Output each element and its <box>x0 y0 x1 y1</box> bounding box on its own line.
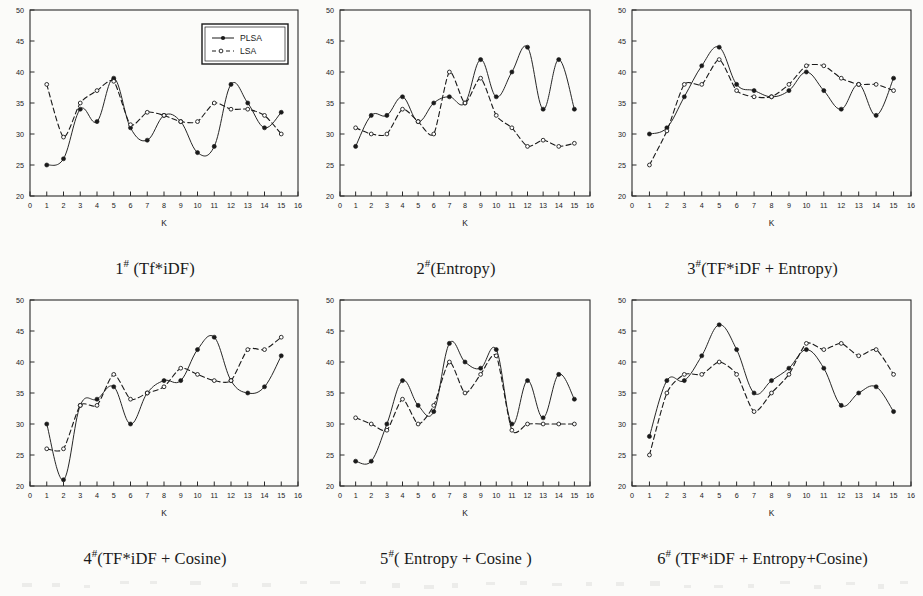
x-tick-label: 11 <box>820 201 827 210</box>
x-tick-label: 9 <box>479 201 483 210</box>
data-point-lsa <box>62 135 66 139</box>
y-tick-label: 20 <box>326 482 334 491</box>
x-tick-label: 1 <box>647 201 651 210</box>
x-tick-label: 0 <box>28 491 32 500</box>
data-point-plsa <box>769 379 773 383</box>
x-tick-label: 12 <box>227 201 235 210</box>
data-point-lsa <box>526 145 530 149</box>
x-tick-label: 4 <box>95 491 99 500</box>
caption-text: (TF*iDF + Cosine) <box>97 548 226 567</box>
data-point-lsa <box>541 138 545 142</box>
x-tick-label: 3 <box>385 201 389 210</box>
x-tick-label: 14 <box>872 201 880 210</box>
caption-number: 1 <box>115 258 123 277</box>
data-point-plsa <box>752 391 756 395</box>
x-tick-label: 7 <box>752 491 756 500</box>
x-tick-label: 12 <box>227 491 235 500</box>
x-tick-label: 16 <box>907 491 915 500</box>
y-tick-label: 35 <box>326 389 334 398</box>
data-point-plsa <box>787 89 791 93</box>
data-point-lsa <box>804 342 808 346</box>
x-tick-label: 6 <box>129 491 133 500</box>
data-point-plsa <box>447 95 451 99</box>
data-point-plsa <box>212 144 216 148</box>
data-point-plsa <box>400 379 404 383</box>
data-point-plsa <box>145 138 149 142</box>
y-tick-label: 20 <box>618 482 626 491</box>
x-tick-label: 1 <box>45 201 49 210</box>
data-point-plsa <box>717 323 721 327</box>
data-point-lsa <box>196 120 200 124</box>
chart-caption-3: 3#(TF*iDF + Entropy) <box>602 257 923 279</box>
data-point-plsa <box>385 422 389 426</box>
data-point-lsa <box>447 360 451 364</box>
data-point-plsa <box>735 82 739 86</box>
chart-svg-2: 20253035404550012345678910111213141516K <box>310 0 602 238</box>
data-point-plsa <box>128 422 132 426</box>
chart-plot-4: 20253035404550012345678910111213141516K <box>0 290 310 528</box>
chart-content: 20253035404550012345678910111213141516K <box>16 296 302 518</box>
data-point-lsa <box>717 360 721 364</box>
y-tick-label: 30 <box>618 420 626 429</box>
chart-svg-5: 20253035404550012345678910111213141516K <box>310 290 602 528</box>
data-point-lsa <box>700 83 704 87</box>
data-point-lsa <box>78 404 82 408</box>
data-point-lsa <box>95 89 99 93</box>
data-point-lsa <box>196 373 200 377</box>
x-tick-label: 1 <box>647 491 651 500</box>
x-tick-label: 15 <box>277 491 285 500</box>
x-tick-label: 5 <box>416 491 420 500</box>
x-tick-label: 12 <box>837 201 845 210</box>
data-point-plsa <box>874 385 878 389</box>
caption-text: ( Entropy + Cosine ) <box>394 548 532 567</box>
data-point-plsa <box>432 101 436 105</box>
y-tick-label: 35 <box>16 99 24 108</box>
legend-marker-plsa <box>221 36 225 40</box>
legend-box <box>202 24 288 64</box>
x-tick-label: 2 <box>62 201 66 210</box>
data-point-lsa <box>229 107 233 111</box>
x-tick-label: 10 <box>194 491 202 500</box>
data-point-lsa <box>354 126 358 130</box>
y-tick-label: 40 <box>326 68 334 77</box>
x-tick-label: 10 <box>802 201 810 210</box>
data-point-plsa <box>354 459 358 463</box>
data-point-lsa <box>416 422 420 426</box>
data-point-lsa <box>770 391 774 395</box>
data-point-plsa <box>369 113 373 117</box>
data-point-plsa <box>822 89 826 93</box>
x-tick-label: 15 <box>277 201 285 210</box>
x-tick-label: 8 <box>770 201 774 210</box>
data-point-plsa <box>479 58 483 62</box>
data-point-lsa <box>179 120 183 124</box>
y-tick-label: 40 <box>16 68 24 77</box>
x-tick-label: 9 <box>787 201 791 210</box>
x-tick-label: 12 <box>524 201 532 210</box>
x-tick-label: 2 <box>62 491 66 500</box>
x-tick-label: 13 <box>539 201 547 210</box>
x-tick-label: 7 <box>752 201 756 210</box>
x-tick-label: 16 <box>907 201 915 210</box>
data-point-lsa <box>401 107 405 111</box>
data-point-plsa <box>557 372 561 376</box>
data-point-plsa <box>572 397 576 401</box>
x-tick-label: 12 <box>837 491 845 500</box>
data-point-lsa <box>822 348 826 352</box>
data-point-plsa <box>647 434 651 438</box>
data-point-plsa <box>447 341 451 345</box>
series-line-plsa <box>47 78 282 165</box>
data-point-plsa <box>262 126 266 130</box>
data-point-lsa <box>145 110 149 114</box>
x-tick-label: 5 <box>112 491 116 500</box>
x-tick-label: 4 <box>700 491 704 500</box>
data-point-lsa <box>279 132 283 136</box>
x-tick-label: 14 <box>261 491 269 500</box>
x-tick-label: 3 <box>682 201 686 210</box>
data-point-plsa <box>212 335 216 339</box>
data-point-plsa <box>369 459 373 463</box>
chart-panel-4: 20253035404550012345678910111213141516K … <box>0 290 310 580</box>
x-tick-label: 0 <box>28 201 32 210</box>
y-tick-label: 20 <box>618 192 626 201</box>
data-point-plsa <box>700 354 704 358</box>
x-tick-label: 9 <box>179 491 183 500</box>
